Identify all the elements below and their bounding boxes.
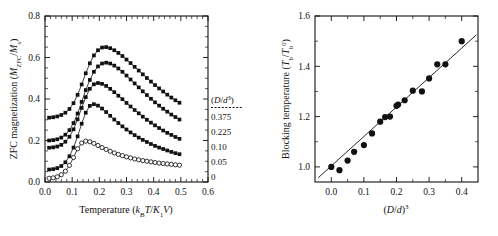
series-marker-3 (129, 131, 133, 135)
legend-label-0: 0.375 (211, 112, 232, 122)
x-tick-label: 0.2 (391, 187, 403, 197)
series-marker-1 (141, 89, 145, 93)
legend-label-1: 0.225 (211, 127, 232, 137)
series-marker-0 (169, 96, 173, 100)
y-tick-label: 1.2 (298, 112, 310, 122)
svg-text:Temperature (kBT/K1V): Temperature (kBT/K1V) (79, 204, 172, 219)
series-marker-1 (64, 133, 68, 137)
series-marker-0 (125, 58, 129, 62)
series-marker-0 (112, 48, 116, 52)
series-marker-3 (108, 114, 112, 118)
data-point (361, 142, 367, 148)
series-marker-2 (76, 117, 80, 121)
series-marker-4 (108, 149, 112, 153)
series-marker-1 (100, 62, 104, 66)
series-marker-3 (117, 121, 121, 125)
series-marker-3 (178, 152, 182, 156)
series-marker-1 (88, 78, 92, 82)
series-marker-0 (104, 45, 108, 49)
series-marker-3 (161, 147, 165, 151)
legend-label-3: 0.05 (211, 157, 227, 167)
series-marker-2 (104, 84, 108, 88)
series-marker-0 (145, 76, 149, 80)
series-marker-4 (96, 143, 100, 147)
series-marker-3 (104, 110, 108, 114)
series-marker-2 (145, 118, 149, 122)
legend: (D/d3) 0.375 0.225 0.10 0.05 0 (211, 94, 243, 183)
x-tick-label: 0.1 (66, 187, 78, 197)
data-point (442, 61, 448, 67)
series-marker-1 (145, 93, 149, 97)
series-marker-1 (149, 97, 153, 101)
series-marker-2 (84, 95, 88, 99)
series-marker-4 (71, 155, 75, 159)
series-marker-3 (47, 168, 51, 172)
series-marker-1 (55, 137, 59, 141)
series-marker-2 (108, 87, 112, 91)
series-marker-2 (165, 131, 169, 135)
series-marker-4 (63, 169, 67, 173)
series-marker-3 (174, 151, 178, 155)
series-marker-3 (145, 140, 149, 144)
series-marker-1 (108, 62, 112, 66)
series-marker-1 (165, 110, 169, 114)
series-marker-4 (116, 152, 120, 156)
series-marker-4 (128, 156, 132, 160)
series-marker-0 (137, 69, 141, 73)
series-marker-4 (100, 145, 104, 149)
series-marker-3 (157, 146, 161, 150)
series-marker-3 (137, 136, 141, 140)
series-marker-2 (169, 133, 173, 137)
series-marker-0 (121, 54, 125, 58)
x-tick-label: 0.0 (39, 187, 51, 197)
series-marker-4 (141, 159, 145, 163)
series-marker-0 (129, 61, 133, 65)
svg-text:Blocking temperature (Tb/Tb0): Blocking temperature (Tb/Tb0) (280, 39, 294, 159)
series-marker-2 (121, 97, 125, 101)
y-tick-label: 0.6 (28, 53, 40, 63)
series-marker-1 (157, 104, 161, 108)
series-marker-0 (165, 93, 169, 97)
series-marker-0 (76, 93, 80, 97)
series-marker-0 (59, 113, 63, 117)
series-marker-4 (145, 159, 149, 163)
series-marker-1 (112, 64, 116, 68)
series-marker-3 (96, 104, 100, 108)
series-marker-1 (121, 70, 125, 74)
series-marker-4 (137, 158, 141, 162)
x-tick-label: 0.3 (423, 187, 435, 197)
series-marker-2 (88, 87, 92, 91)
series-marker-2 (141, 115, 145, 119)
series-marker-2 (51, 146, 55, 150)
series-marker-4 (173, 163, 177, 167)
right-axis-ticks (315, 16, 478, 182)
series-marker-3 (76, 135, 80, 139)
data-point (395, 101, 401, 107)
series-marker-4 (133, 157, 137, 161)
series-marker-4 (149, 160, 153, 164)
series-marker-2 (149, 121, 153, 125)
series-marker-3 (169, 150, 173, 154)
series-marker-0 (178, 101, 182, 105)
series-marker-2 (129, 105, 133, 109)
series-marker-0 (100, 46, 104, 50)
series-marker-1 (84, 88, 88, 92)
series-marker-3 (153, 144, 157, 148)
data-point (402, 97, 408, 103)
series-marker-0 (47, 116, 51, 120)
series-marker-3 (51, 167, 55, 171)
y-tick-label: 0.4 (28, 94, 40, 104)
series-marker-1 (153, 100, 157, 104)
y-tick-label: 1.0 (298, 162, 310, 172)
series-marker-3 (55, 166, 59, 170)
xlabel-tail: ) (169, 204, 172, 216)
series-marker-0 (96, 48, 100, 52)
y-tick-label: 1.4 (298, 62, 310, 72)
series-marker-3 (133, 133, 137, 137)
series-marker-0 (149, 80, 153, 84)
right-plot-frame (315, 16, 478, 182)
series-marker-4 (55, 175, 59, 179)
svg-text:(D/d)3: (D/d)3 (383, 203, 409, 216)
series-marker-2 (133, 108, 137, 112)
series-marker-1 (174, 115, 178, 119)
